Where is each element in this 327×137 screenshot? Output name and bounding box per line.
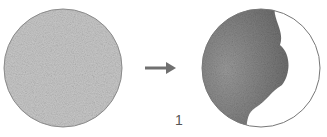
after-circle — [200, 5, 325, 135]
before-circle — [4, 9, 122, 127]
transition-arrow — [145, 62, 176, 74]
figure-label: 1 — [175, 112, 183, 128]
diagram-canvas — [0, 0, 327, 137]
